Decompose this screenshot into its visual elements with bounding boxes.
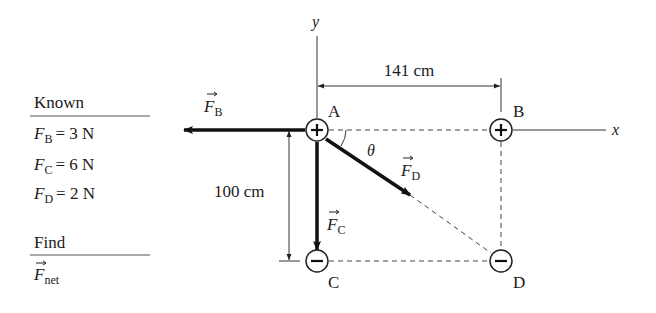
charge-b: B [490,102,524,141]
find-heading: Find [34,233,66,252]
known-heading: Known [34,93,85,112]
force-vector-fb: FB [184,92,305,130]
dimension-horizontal: 141 cm [318,61,501,112]
svg-text:FC: FC [326,215,345,237]
force-diagram: Known FB= 3 N FC= 6 N FD= 2 N Find Fnet … [0,0,656,313]
y-axis-label: y [310,13,320,31]
angle-theta-label: θ [367,142,375,159]
diagonal-a-d [410,195,491,253]
svg-text:Fnet: Fnet [33,265,60,287]
charge-a-label: A [328,102,341,121]
charge-a: A [306,102,341,141]
axes: y x [310,13,619,138]
x-axis-label: x [611,121,619,138]
force-vector-fc: FC [317,142,345,250]
charge-b-label: B [513,102,524,121]
charge-d-label: D [513,273,525,292]
svg-text:FB: FB [203,97,222,119]
charge-c: C [306,250,339,292]
angle-theta: θ [341,130,375,159]
find-panel: Find Fnet [30,233,150,287]
known-item-fd: FD= 2 N [33,184,95,206]
known-item-fb: FB= 3 N [33,124,94,146]
known-panel: Known FB= 3 N FC= 6 N FD= 2 N [30,93,150,206]
dimension-141cm-label: 141 cm [384,61,435,80]
angle-arc [341,130,346,146]
charge-c-label: C [328,273,339,292]
find-fnet: Fnet [33,261,60,287]
charge-d: D [490,250,525,292]
charge-square-outline [329,130,501,261]
svg-text:FD: FD [400,161,420,183]
dimension-100cm-label: 100 cm [214,182,265,201]
dimension-vertical: 100 cm [214,131,300,261]
known-item-fc: FC= 6 N [33,155,94,177]
